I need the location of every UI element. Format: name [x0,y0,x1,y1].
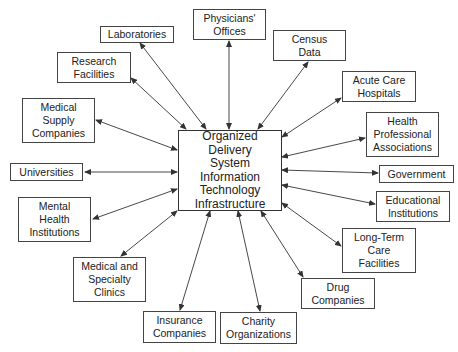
center-node-odsit: Organized Delivery System Information Te… [178,130,282,211]
node-drug-companies: Drug Companies [301,278,375,309]
node-long-term-care-facilities: Long-Term Care Facilities [342,228,416,273]
node-medical-supply-companies: Medical Supply Companies [22,98,95,143]
node-research-facilities: Research Facilities [57,52,131,83]
arrow-clinics [121,211,177,256]
arrow-drug [261,211,303,277]
arrow-insurance [180,211,210,310]
node-health-professional-associations: Health Professional Associations [366,112,439,157]
arrow-mental [93,189,177,219]
arrow-census [258,62,308,129]
node-laboratories: Laboratories [100,26,174,43]
arrow-research [131,78,186,129]
arrow-educational [282,185,375,204]
node-insurance-companies: Insurance Companies [143,311,216,343]
arrow-health-prof [282,138,365,157]
node-census-data: Census Data [273,30,346,61]
node-educational-institutions: Educational Institutions [376,191,450,222]
arrow-longterm [282,203,341,246]
node-government: Government [379,165,454,183]
node-acute-care-hospitals: Acute Care Hospitals [342,71,416,102]
arrow-laboratories [140,43,206,129]
arrow-acute [282,98,341,137]
node-physicians-offices: Physicians' Offices [193,9,266,40]
arrow-government [282,170,378,173]
node-universities: Universities [10,163,83,181]
node-medical-specialty-clinics: Medical and Specialty Clinics [73,257,146,302]
node-charity-organizations: Charity Organizations [220,312,297,344]
arrow-charity [238,211,260,311]
node-mental-health-institutions: Mental Health Institutions [18,197,91,242]
arrow-medsupply [96,120,177,150]
diagram-canvas: Organized Delivery System Information Te… [0,0,458,352]
